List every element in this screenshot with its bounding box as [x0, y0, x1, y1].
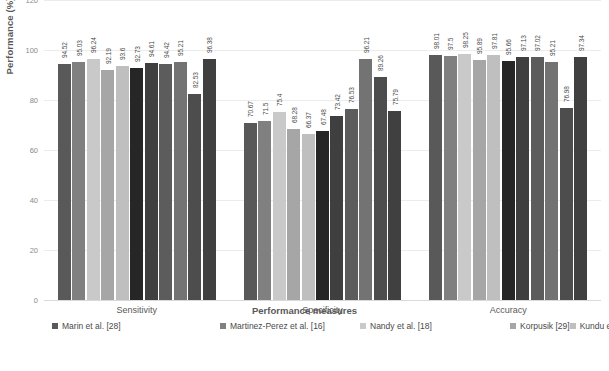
- bar-value-label: 95.66: [505, 39, 512, 55]
- bar-value-label: 95.03: [76, 41, 83, 57]
- bar[interactable]: [531, 57, 544, 300]
- legend-swatch-icon: [220, 323, 226, 329]
- legend-label: Korpusik [29]: [520, 321, 570, 331]
- legend-swatch-icon: [360, 323, 366, 329]
- bar-slot: 71.5: [258, 0, 271, 300]
- bar-groups: 94.5295.0396.2492.1993.692.7394.6194.429…: [44, 0, 601, 300]
- bar-group-specificity: 70.6771.575.468.2866.3767.4873.4276.5396…: [230, 0, 416, 300]
- bar-slot: 96.38: [203, 0, 216, 300]
- bar-slot: 98.25: [458, 0, 471, 300]
- bar[interactable]: [388, 111, 401, 300]
- bar-slot: 97.5: [444, 0, 457, 300]
- y-axis-tick-labels: 020406080100120: [0, 0, 44, 300]
- bar[interactable]: [560, 108, 573, 300]
- bar-value-label: 76.98: [563, 86, 570, 102]
- bar[interactable]: [545, 62, 558, 300]
- bar[interactable]: [302, 134, 315, 300]
- bar-slot: 94.61: [145, 0, 158, 300]
- y-axis-tick-60: 60: [30, 146, 38, 155]
- bar[interactable]: [516, 57, 529, 300]
- bar-slot: 66.37: [302, 0, 315, 300]
- bar[interactable]: [72, 62, 85, 300]
- bar-slot: 68.28: [287, 0, 300, 300]
- bar-chart: Performance (%) 020406080100120 94.5295.…: [0, 0, 609, 371]
- bar-slot: 98.01: [429, 0, 442, 300]
- bar[interactable]: [188, 94, 201, 300]
- y-axis-tick-40: 40: [30, 196, 38, 205]
- legend-label: Nandy et al. [18]: [370, 321, 432, 331]
- bar-value-label: 73.42: [334, 95, 341, 111]
- bar[interactable]: [101, 70, 114, 300]
- bar[interactable]: [273, 112, 286, 301]
- bar[interactable]: [487, 55, 500, 300]
- legend-item[interactable]: Nandy et al. [18]: [360, 318, 510, 333]
- bar-value-label: 97.5: [447, 38, 454, 50]
- bar[interactable]: [458, 54, 471, 300]
- legend-item[interactable]: Martinez-Perez et al. [16]: [220, 318, 360, 333]
- bar-value-label: 75.4: [276, 93, 283, 105]
- bar[interactable]: [244, 123, 257, 300]
- bar[interactable]: [258, 121, 271, 300]
- legend-item[interactable]: Marin et al. [28]: [52, 318, 220, 333]
- bar[interactable]: [174, 62, 187, 300]
- bar-slot: 97.02: [531, 0, 544, 300]
- bar-slot: 95.21: [174, 0, 187, 300]
- bar[interactable]: [87, 59, 100, 300]
- bar[interactable]: [330, 116, 343, 300]
- bar-value-label: 96.24: [90, 38, 97, 54]
- bar-slot: 75.79: [388, 0, 401, 300]
- bar[interactable]: [316, 131, 329, 300]
- bar-value-label: 95.21: [549, 40, 556, 56]
- bar-slot: 96.24: [87, 0, 100, 300]
- bar-value-label: 95.89: [476, 39, 483, 55]
- bar[interactable]: [287, 129, 300, 300]
- bar-slot: 95.89: [473, 0, 486, 300]
- bar[interactable]: [374, 77, 387, 300]
- bar-slot: 67.48: [316, 0, 329, 300]
- bar-value-label: 71.5: [262, 103, 269, 115]
- bar-slot: 94.52: [58, 0, 71, 300]
- bar-value-label: 96.38: [206, 37, 213, 53]
- bar-slot: 95.21: [545, 0, 558, 300]
- bar-slot: 76.53: [345, 0, 358, 300]
- bar[interactable]: [58, 64, 71, 300]
- bar-value-label: 75.79: [392, 89, 399, 105]
- bar-slot: 97.34: [574, 0, 587, 300]
- bar-value-label: 94.52: [61, 42, 68, 58]
- bar-value-label: 97.13: [520, 35, 527, 51]
- x-axis-title: Performance measures: [0, 305, 609, 316]
- bar[interactable]: [116, 66, 129, 300]
- bar-value-label: 94.42: [163, 42, 170, 58]
- bar-value-label: 68.28: [291, 108, 298, 124]
- bars-container: 94.5295.0396.2492.1993.692.7394.6194.429…: [44, 0, 230, 300]
- bar[interactable]: [444, 56, 457, 300]
- bar[interactable]: [130, 68, 143, 300]
- legend-item[interactable]: Korpusik [29]: [510, 318, 570, 333]
- bar[interactable]: [574, 57, 587, 300]
- bar-slot: 93.6: [116, 0, 129, 300]
- bar[interactable]: [473, 60, 486, 300]
- legend-label: Marin et al. [28]: [62, 321, 121, 331]
- y-axis-tick-20: 20: [30, 246, 38, 255]
- bar[interactable]: [159, 64, 172, 300]
- bar[interactable]: [145, 63, 158, 300]
- bar[interactable]: [345, 109, 358, 300]
- legend-label: Martinez-Perez et al. [16]: [230, 321, 325, 331]
- legend-swatch-icon: [570, 323, 576, 329]
- y-axis-tick-120: 120: [25, 0, 38, 5]
- bar-value-label: 70.67: [247, 102, 254, 118]
- bar-value-label: 92.19: [105, 48, 112, 64]
- bar-slot: 95.66: [502, 0, 515, 300]
- bar-group-accuracy: 98.0197.598.2595.8997.8195.6697.1397.029…: [415, 0, 601, 300]
- bar[interactable]: [502, 61, 515, 300]
- bars-container: 98.0197.598.2595.8997.8195.6697.1397.029…: [415, 0, 601, 300]
- legend-item[interactable]: Kundu et al. [9]: [570, 318, 609, 333]
- bar-slot: 95.03: [72, 0, 85, 300]
- bar[interactable]: [429, 55, 442, 300]
- bar[interactable]: [203, 59, 216, 300]
- bar-value-label: 97.34: [578, 35, 585, 51]
- bar-slot: 94.42: [159, 0, 172, 300]
- bar-value-label: 92.73: [134, 46, 141, 62]
- bar[interactable]: [359, 59, 372, 300]
- bar-slot: 97.13: [516, 0, 529, 300]
